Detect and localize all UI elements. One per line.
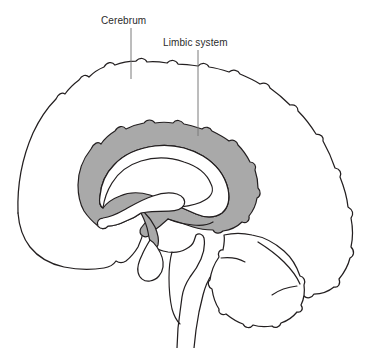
brain-anatomy-figure: Cerebrum Limbic system xyxy=(0,0,383,348)
label-cerebrum: Cerebrum xyxy=(101,15,146,26)
brain-diagram-svg xyxy=(0,0,383,348)
brainstem xyxy=(152,234,220,348)
label-limbic-system: Limbic system xyxy=(163,37,228,48)
pituitary-gland xyxy=(138,240,163,281)
